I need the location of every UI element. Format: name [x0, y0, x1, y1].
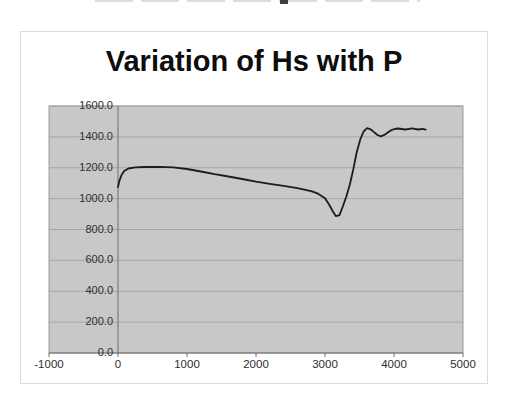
y-tick-label: 400.0: [21, 284, 113, 297]
y-tick-label: 200.0: [21, 315, 113, 328]
y-tick-label: 1600.0: [21, 99, 113, 112]
y-tick-label: 600.0: [21, 253, 113, 266]
y-tick-label: 800.0: [21, 223, 113, 236]
y-tick-label: 1400.0: [21, 130, 113, 143]
x-tick-label: 3000: [295, 358, 355, 371]
cropped-content-top-edge: [95, 0, 420, 2]
x-tick-label: 1000: [157, 358, 217, 371]
y-tick-label: 1000.0: [21, 192, 113, 205]
chart: Variation of Hs with P 1600.01400.01200.…: [20, 31, 488, 384]
screenshot-root: Variation of Hs with P 1600.01400.01200.…: [0, 0, 509, 406]
chart-title: Variation of Hs with P: [21, 45, 487, 78]
y-tick-label: 1200.0: [21, 161, 113, 174]
x-tick-label: 2000: [226, 358, 286, 371]
cropped-content-mark: [280, 0, 288, 4]
x-tick-label: 0: [88, 358, 148, 371]
x-tick-label: 4000: [364, 358, 424, 371]
x-tick-label: 5000: [433, 358, 493, 371]
x-tick-label: -1000: [19, 358, 79, 371]
